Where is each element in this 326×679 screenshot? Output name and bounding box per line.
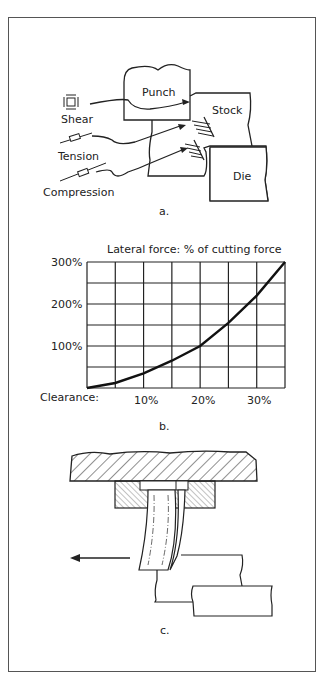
- die-block: [192, 586, 273, 616]
- arrow-left-icon: [70, 554, 80, 562]
- panel-c-caption: c.: [160, 624, 170, 637]
- panel-c-diagram: [0, 0, 326, 679]
- top-plate: [70, 451, 257, 481]
